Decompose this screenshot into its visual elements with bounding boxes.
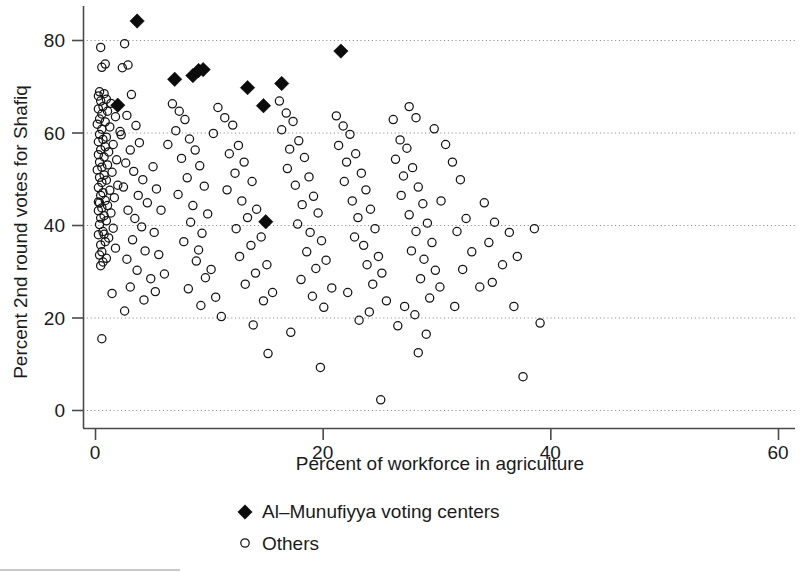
data-point-other	[122, 159, 130, 167]
data-point-other	[240, 158, 248, 166]
data-point-other	[132, 121, 140, 129]
data-point-other	[155, 251, 163, 259]
data-point-other	[111, 244, 119, 252]
data-point-other	[442, 140, 450, 148]
data-point-other	[287, 328, 295, 336]
data-point-other	[149, 163, 157, 171]
data-point-other	[243, 214, 251, 222]
data-point-other	[124, 206, 132, 214]
y-axis-ticks: 020406080	[44, 30, 83, 421]
data-point-other	[462, 214, 470, 222]
data-point-other	[164, 140, 172, 148]
data-point-other	[468, 248, 476, 256]
data-point-other	[143, 199, 151, 207]
data-point-other	[189, 201, 197, 209]
data-point-other	[291, 181, 299, 189]
data-point-other	[309, 192, 317, 200]
data-point-other	[133, 266, 141, 274]
data-point-other	[436, 283, 444, 291]
data-point-other	[197, 301, 205, 309]
data-point-other	[456, 176, 464, 184]
series-others-points	[93, 40, 544, 404]
data-point-other	[235, 252, 243, 260]
data-point-other	[412, 227, 420, 235]
data-point-other	[300, 153, 308, 161]
data-point-other	[453, 227, 461, 235]
data-point-other	[194, 246, 202, 254]
data-point-other	[114, 181, 122, 189]
data-point-other	[168, 100, 176, 108]
data-point-other	[428, 238, 436, 246]
data-point-other	[207, 265, 215, 273]
scatter-plot-figure: Percent 2nd round votes for Shafiq 02040…	[0, 0, 801, 572]
data-point-other	[513, 252, 521, 260]
data-point-other	[342, 158, 350, 166]
data-point-other	[231, 169, 239, 177]
x-tick-label: 60	[767, 442, 788, 463]
data-point-other	[249, 321, 257, 329]
data-point-other	[223, 186, 231, 194]
data-point-other	[180, 238, 188, 246]
data-point-other	[110, 194, 118, 202]
data-point-other	[317, 237, 325, 245]
data-point-other	[131, 214, 139, 222]
data-point-other	[355, 316, 363, 324]
data-point-almunufiyya	[130, 14, 144, 28]
data-point-other	[175, 107, 183, 115]
data-point-other	[98, 125, 106, 133]
data-point-other	[217, 312, 225, 320]
data-point-other	[109, 224, 117, 232]
data-point-other	[97, 43, 105, 51]
data-point-other	[181, 115, 189, 123]
data-point-other	[196, 162, 204, 170]
data-point-other	[187, 218, 195, 226]
data-point-other	[389, 115, 397, 123]
data-point-other	[139, 176, 147, 184]
data-point-almunufiyya	[256, 98, 270, 112]
data-point-other	[382, 297, 390, 305]
data-point-other	[419, 200, 427, 208]
data-point-other	[505, 228, 513, 236]
data-point-other	[401, 302, 409, 310]
data-point-other	[360, 241, 368, 249]
data-point-other	[530, 225, 538, 233]
data-point-other	[127, 90, 135, 98]
data-point-other	[519, 373, 527, 381]
data-point-other	[201, 274, 209, 282]
data-point-other	[378, 269, 386, 277]
data-point-other	[339, 122, 347, 130]
data-point-almunufiyya	[259, 215, 273, 229]
data-point-other	[174, 190, 182, 198]
data-point-other	[488, 278, 496, 286]
data-point-other	[106, 123, 114, 131]
data-point-other	[405, 103, 413, 111]
data-point-other	[120, 40, 128, 48]
data-point-other	[354, 214, 362, 222]
data-point-other	[253, 205, 261, 213]
data-point-other	[264, 349, 272, 357]
data-point-other	[485, 238, 493, 246]
data-point-other	[184, 285, 192, 293]
data-point-other	[305, 173, 313, 181]
data-point-other	[172, 127, 180, 135]
legend-label-others: Others	[262, 533, 319, 554]
data-point-other	[476, 283, 484, 291]
legend-label-almunufiyya: Al–Munufiyya voting centers	[262, 501, 500, 522]
data-point-other	[247, 241, 255, 249]
data-point-other	[366, 205, 374, 213]
chart-canvas: Percent 2nd round votes for Shafiq 02040…	[0, 0, 801, 572]
gridlines	[83, 41, 795, 411]
data-point-other	[141, 247, 149, 255]
x-tick-label: 0	[90, 442, 101, 463]
data-point-other	[119, 183, 127, 191]
data-point-other	[234, 141, 242, 149]
data-point-other	[363, 261, 371, 269]
x-axis-title: Percent of workforce in agriculture	[296, 453, 584, 474]
y-tick-label: 0	[54, 400, 65, 421]
data-point-other	[138, 223, 146, 231]
data-point-other	[294, 220, 302, 228]
data-point-other	[303, 248, 311, 256]
data-point-other	[365, 308, 373, 316]
data-point-other	[251, 269, 259, 277]
data-point-other	[312, 264, 320, 272]
